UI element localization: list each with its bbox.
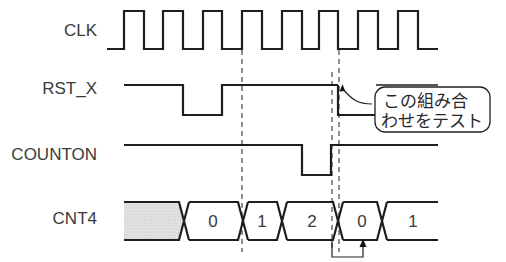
- bus-value-3: 0: [357, 212, 366, 231]
- callout-line-1: この組み合: [383, 91, 468, 111]
- clk-waveform: [107, 11, 438, 49]
- bus-segment-unknown: [124, 202, 184, 240]
- callout: この組み合 わせをテスト: [338, 84, 490, 132]
- rst-x-waveform: [124, 85, 338, 115]
- bus-value-0: 0: [208, 212, 217, 231]
- bus-value-4: 1: [408, 212, 417, 231]
- cnt4-bus: 0 1 2 0 1: [124, 202, 438, 240]
- signal-label-clk: CLK: [64, 21, 98, 40]
- bracket-connector: [332, 240, 363, 257]
- signal-label-counton: COUNTON: [11, 145, 97, 164]
- callout-leader: [342, 88, 372, 104]
- bus-value-2: 2: [307, 212, 316, 231]
- callout-line-2: わせをテスト: [381, 111, 483, 131]
- timing-diagram: CLK RST_X COUNTON CNT4 0 1 2 0 1 この組み合 わ…: [0, 0, 506, 262]
- counton-waveform: [124, 145, 438, 175]
- bus-value-1: 1: [257, 212, 266, 231]
- signal-label-rst-x: RST_X: [42, 79, 97, 98]
- signal-label-cnt4: CNT4: [53, 209, 97, 228]
